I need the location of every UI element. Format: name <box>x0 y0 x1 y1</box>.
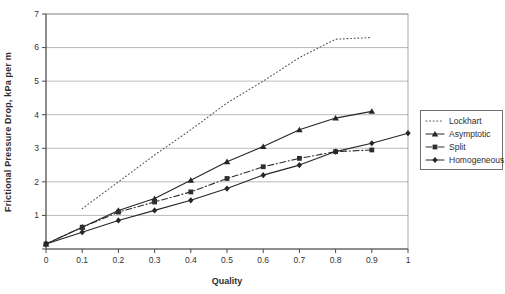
square-marker <box>116 210 121 215</box>
series-homogeneous <box>43 130 410 247</box>
square-marker <box>433 144 438 149</box>
x-tick-label: 0.2 <box>112 255 124 265</box>
legend-item-split: Split <box>425 140 498 153</box>
y-tick-label: 1 <box>34 210 39 220</box>
triangle-marker <box>224 159 231 165</box>
square-marker <box>188 190 193 195</box>
series-line <box>46 150 372 244</box>
y-tick-label: 7 <box>34 9 39 19</box>
diamond-marker <box>261 172 266 178</box>
diamond-marker <box>80 229 85 235</box>
diamond-marker <box>152 207 157 213</box>
x-tick-label: 1 <box>406 255 411 265</box>
legend-label: Asymptotic <box>449 129 491 139</box>
legend-label: Split <box>449 142 466 152</box>
x-tick-label: 0.1 <box>76 255 88 265</box>
legend-label: Lockhart <box>449 116 482 126</box>
x-tick-label: 0.9 <box>366 255 378 265</box>
x-tick-label: 0.8 <box>330 255 342 265</box>
series-line <box>46 111 372 244</box>
y-tick-label: 3 <box>34 143 39 153</box>
x-tick-label: 0.7 <box>293 255 305 265</box>
lockhart-line-sample-icon <box>425 116 445 126</box>
triangle-marker <box>260 144 267 150</box>
asymptotic-line-sample-icon <box>425 129 445 139</box>
square-marker <box>369 148 374 153</box>
legend-item-homogeneous: Homogeneous <box>425 153 498 166</box>
x-tick-label: 0.5 <box>221 255 233 265</box>
x-axis-title: Quality <box>46 276 408 286</box>
legend-label: Homogeneous <box>449 155 504 165</box>
chart: 123456700.10.20.30.40.50.60.70.80.91 Fri… <box>0 0 505 294</box>
homogeneous-line-sample-icon <box>425 155 445 165</box>
legend-item-asymptotic: Asymptotic <box>425 127 498 140</box>
x-tick-label: 0.3 <box>149 255 161 265</box>
diamond-marker <box>405 130 410 136</box>
legend-item-lockhart: Lockhart <box>425 114 498 127</box>
square-marker <box>80 225 85 230</box>
square-marker <box>297 156 302 161</box>
y-tick-label: 6 <box>34 42 39 52</box>
y-tick-label: 5 <box>34 76 39 86</box>
diamond-marker <box>116 217 121 223</box>
diamond-marker <box>188 197 193 203</box>
diamond-marker <box>297 162 302 168</box>
triangle-marker <box>369 108 376 114</box>
x-tick-label: 0 <box>44 255 49 265</box>
square-marker <box>152 200 157 205</box>
y-tick-label: 2 <box>34 177 39 187</box>
plot-border <box>46 14 408 249</box>
y-axis-title: Frictional Pressure Drop, kPa per m <box>1 14 15 249</box>
square-marker <box>225 176 230 181</box>
square-marker <box>261 164 266 169</box>
diamond-marker <box>432 156 437 162</box>
x-tick-label: 0.4 <box>185 255 197 265</box>
triangle-marker <box>188 177 195 183</box>
legend: LockhartAsymptoticSplitHomogeneous <box>420 110 503 170</box>
diamond-marker <box>369 140 374 146</box>
split-line-sample-icon <box>425 142 445 152</box>
diamond-marker <box>224 185 229 191</box>
y-tick-label: 4 <box>34 110 39 120</box>
x-tick-label: 0.6 <box>257 255 269 265</box>
series-asymptotic <box>43 108 375 246</box>
series-line <box>82 38 372 209</box>
series-lockhart <box>82 38 372 209</box>
series-split <box>44 148 375 247</box>
